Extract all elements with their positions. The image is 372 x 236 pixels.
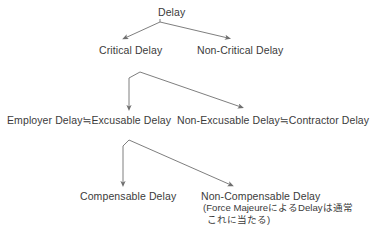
diagram-canvas: Delay Critical Delay Non-Critical Delay … bbox=[0, 0, 372, 236]
edge-critical-to-employer bbox=[129, 72, 140, 108]
edge-root-to-non-critical bbox=[160, 22, 228, 38]
edge-employer-to-compensable bbox=[123, 140, 129, 184]
edge-employer-to-non-compensable bbox=[129, 140, 231, 185]
node-employer-delay: Employer Delay≒Excusable Delay bbox=[7, 114, 171, 126]
node-critical-delay: Critical Delay bbox=[99, 44, 162, 56]
edge-root-to-critical bbox=[125, 19, 160, 38]
node-non-critical-delay: Non-Critical Delay bbox=[197, 44, 283, 56]
note-line-1: (Force MajeureによるDelayは通常 bbox=[203, 202, 353, 214]
node-non-excusable-delay: Non-Excusable Delay≒Contractor Delay bbox=[177, 114, 369, 126]
note-line-2: これに当たる) bbox=[203, 214, 353, 226]
non-compensable-note: (Force MajeureによるDelayは通常 これに当たる) bbox=[203, 202, 353, 225]
node-non-compensable-delay: Non-Compensable Delay bbox=[201, 190, 320, 202]
edge-critical-to-non-excusable bbox=[140, 72, 241, 107]
node-compensable-delay: Compensable Delay bbox=[80, 190, 176, 202]
node-delay: Delay bbox=[158, 6, 185, 18]
